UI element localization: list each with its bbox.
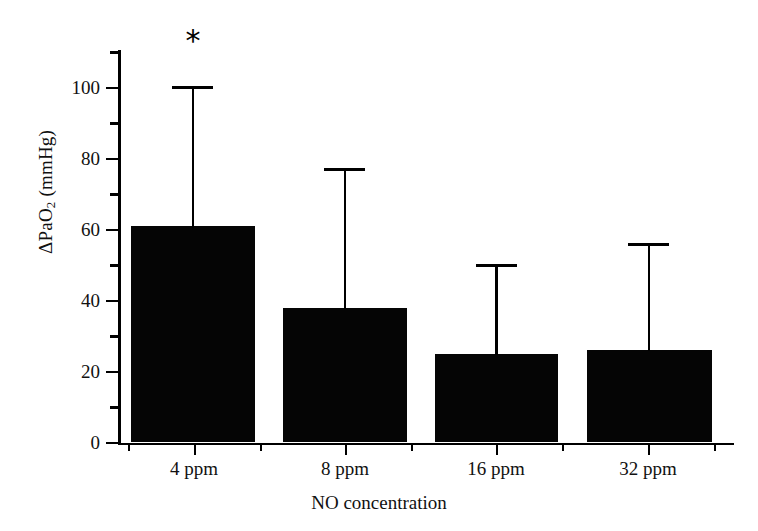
x-tick-label-4ppm: 4 ppm (134, 459, 254, 478)
x-tick-center-4ppm (194, 443, 196, 455)
y-tick-label-100: 100 (38, 78, 100, 97)
y-axis-spine (118, 50, 121, 445)
y-tick-minor-50 (110, 264, 119, 266)
error-bar-stem-16ppm (495, 265, 498, 355)
bar-32ppm (587, 350, 712, 442)
x-axis-spine (118, 443, 734, 446)
y-tick-label-40: 40 (38, 291, 100, 310)
y-axis-title: ΔPaO2 (mmHg) (35, 97, 59, 287)
x-tick-edge-0 (128, 443, 130, 451)
x-tick-edge-3 (562, 443, 564, 451)
bar-4ppm (131, 226, 255, 443)
significance-asterisk-4ppm: * (173, 26, 213, 56)
x-tick-center-32ppm (648, 443, 650, 455)
y-tick-minor-90 (110, 122, 119, 124)
error-bar-stem-4ppm (192, 88, 195, 228)
x-tick-edge-1 (260, 443, 262, 451)
x-tick-label-32ppm: 32 ppm (588, 459, 708, 478)
y-axis-title-subscript: 2 (43, 202, 58, 209)
y-tick-minor-30 (110, 335, 119, 337)
error-bar-cap-16ppm (476, 264, 517, 267)
y-tick-label-20: 20 (38, 362, 100, 381)
x-axis-title: NO concentration (0, 492, 758, 514)
x-tick-label-16ppm: 16 ppm (436, 459, 556, 478)
y-tick-label-0: 0 (38, 433, 100, 452)
y-tick-minor-10 (110, 406, 119, 408)
y-tick-label-80: 80 (38, 149, 100, 168)
y-tick-40 (106, 300, 119, 302)
x-tick-center-8ppm (345, 443, 347, 455)
bar-16ppm (435, 354, 558, 443)
y-tick-minor-110 (110, 51, 119, 53)
x-tick-label-8ppm: 8 ppm (285, 459, 405, 478)
x-tick-edge-4 (714, 443, 716, 451)
y-tick-60 (106, 229, 119, 231)
y-tick-20 (106, 371, 119, 373)
x-tick-edge-2 (411, 443, 413, 451)
error-bar-cap-4ppm (172, 86, 213, 89)
bar-8ppm (283, 308, 407, 443)
x-tick-center-16ppm (496, 443, 498, 455)
error-bar-stem-8ppm (344, 169, 347, 309)
y-tick-80 (106, 158, 119, 160)
y-tick-0 (106, 442, 119, 444)
error-bar-stem-32ppm (648, 244, 651, 351)
y-tick-label-60: 60 (38, 220, 100, 239)
error-bar-cap-32ppm (628, 243, 669, 246)
y-tick-100 (106, 87, 119, 89)
y-tick-minor-70 (110, 193, 119, 195)
bar-chart-figure: ΔPaO2 (mmHg) 100 80 60 40 20 0 4 ppm 8 p… (0, 0, 758, 531)
error-bar-cap-8ppm (324, 168, 365, 171)
